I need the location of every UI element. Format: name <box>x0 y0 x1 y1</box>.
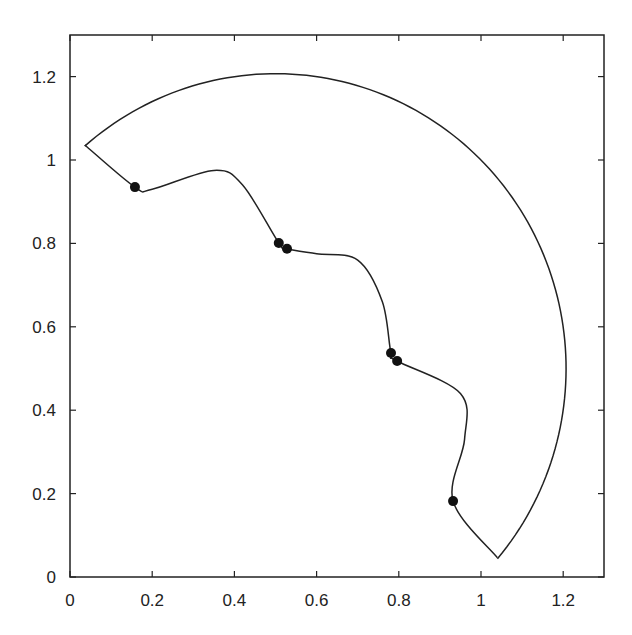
axis-ticks <box>70 35 604 577</box>
x-tick-label: 0.4 <box>223 591 247 610</box>
y-tick-label: 0 <box>47 568 56 587</box>
y-tick-label: 0.6 <box>32 318 56 337</box>
x-tick-label: 0.8 <box>387 591 411 610</box>
plot-frame <box>70 35 604 577</box>
outer-arc-curve <box>85 74 566 559</box>
y-tick-label: 1 <box>47 151 56 170</box>
x-tick-label: 1 <box>476 591 485 610</box>
y-tick-label: 1.2 <box>32 68 56 87</box>
x-tick-label: 1.2 <box>551 591 575 610</box>
x-tick-labels: 00.20.40.60.811.2 <box>65 591 575 610</box>
x-tick-label: 0 <box>65 591 74 610</box>
x-tick-label: 0.2 <box>140 591 164 610</box>
marker-dot <box>130 182 140 192</box>
marker-dot <box>282 244 292 254</box>
y-tick-label: 0.4 <box>32 401 56 420</box>
marker-dot <box>386 348 396 358</box>
plot: 00.20.40.60.811.2 00.20.40.60.811.2 <box>0 0 632 635</box>
y-tick-labels: 00.20.40.60.811.2 <box>32 68 56 587</box>
x-tick-label: 0.6 <box>305 591 329 610</box>
marker-dot <box>448 496 458 506</box>
marker-dot <box>274 238 284 248</box>
data-markers <box>130 182 458 506</box>
y-tick-label: 0.8 <box>32 234 56 253</box>
inner-wavy-curve <box>85 145 498 558</box>
marker-dot <box>392 356 402 366</box>
y-tick-label: 0.2 <box>32 485 56 504</box>
